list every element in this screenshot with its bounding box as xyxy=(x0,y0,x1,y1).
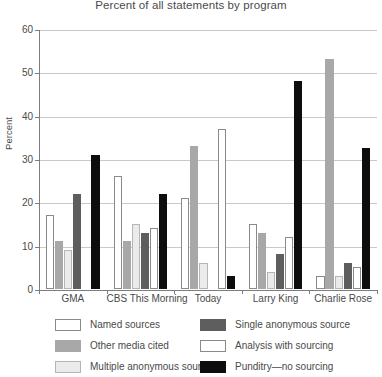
bar xyxy=(227,276,235,289)
bar xyxy=(123,241,131,289)
legend-label: Punditry—no sourcing xyxy=(235,361,333,372)
y-tick-label: 40 xyxy=(0,112,33,122)
bar xyxy=(267,272,275,289)
y-tick-label: 60 xyxy=(0,25,33,35)
legend-entry: Single anonymous source xyxy=(200,314,382,335)
bar xyxy=(294,81,302,289)
legend-entry: Punditry—no sourcing xyxy=(200,356,382,377)
bar xyxy=(55,241,63,289)
bar xyxy=(325,59,333,289)
bar xyxy=(258,233,266,289)
x-axis-category-label: Today xyxy=(174,293,242,304)
bar xyxy=(218,129,226,289)
bar xyxy=(150,228,158,289)
medium-gray-swatch xyxy=(55,340,81,352)
x-axis-category-label: Charlie Rose xyxy=(309,293,377,304)
bar xyxy=(335,276,343,289)
y-tick-label: 0 xyxy=(0,285,33,295)
bar xyxy=(362,148,370,289)
black-swatch xyxy=(200,361,226,373)
bar xyxy=(249,224,257,289)
chart-title: Percent of all statements by program xyxy=(0,0,382,11)
y-tick-label: 30 xyxy=(0,155,33,165)
bar xyxy=(344,263,352,289)
plot-area xyxy=(39,30,377,290)
bar xyxy=(159,194,167,289)
legend-label: Analysis with sourcing xyxy=(235,340,333,351)
legend-label: Named sources xyxy=(90,319,160,330)
bar-group xyxy=(181,29,235,289)
bar xyxy=(132,224,140,289)
x-axis-category-label: GMA xyxy=(39,293,107,304)
bar xyxy=(181,198,189,289)
bar xyxy=(91,155,99,289)
x-axis-category-label: CBS This Morning xyxy=(107,293,175,304)
legend-column-right: Single anonymous sourceAnalysis with sou… xyxy=(200,314,382,377)
light-gray-swatch xyxy=(55,361,81,373)
bar-group xyxy=(316,29,370,289)
x-axis-line xyxy=(39,290,377,291)
chart-legend: Named sourcesOther media citedMultiple a… xyxy=(0,314,382,377)
bar xyxy=(276,254,284,289)
legend-label: Single anonymous source xyxy=(235,319,350,330)
x-axis-category-label: Larry King xyxy=(242,293,310,304)
bar xyxy=(114,176,122,289)
white-swatch xyxy=(200,340,226,352)
bar-group xyxy=(249,29,303,289)
bar xyxy=(353,267,361,289)
bar xyxy=(46,215,54,289)
bar xyxy=(141,233,149,289)
bar-group xyxy=(114,29,168,289)
bar-group xyxy=(46,29,100,289)
y-tick-label: 20 xyxy=(0,198,33,208)
bar xyxy=(190,146,198,289)
legend-label: Other media cited xyxy=(90,340,169,351)
legend-label: Multiple anonymous sources xyxy=(90,361,217,372)
y-axis-line xyxy=(39,30,40,291)
bar xyxy=(285,237,293,289)
white-swatch xyxy=(55,319,81,331)
dark-gray-swatch xyxy=(200,319,226,331)
bar xyxy=(199,263,207,289)
bar xyxy=(73,194,81,289)
bar xyxy=(316,276,324,289)
y-tick-label: 50 xyxy=(0,68,33,78)
x-tick-mark xyxy=(377,290,378,294)
legend-entry: Analysis with sourcing xyxy=(200,335,382,356)
y-tick-label: 10 xyxy=(0,242,33,252)
bar xyxy=(64,250,72,289)
